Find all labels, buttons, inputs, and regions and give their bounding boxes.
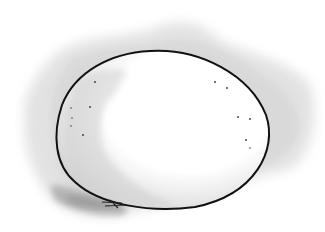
egg-illustration-svg: [0, 0, 325, 232]
egg-illustration: [0, 0, 325, 232]
